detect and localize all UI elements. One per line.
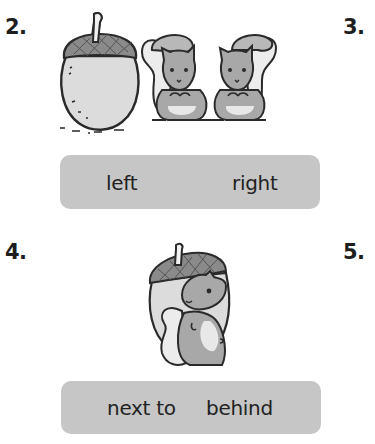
choice-box-exercise-2: left right (60, 155, 320, 209)
acorn-illustration (58, 12, 143, 134)
exercise-number-3: 3. (343, 17, 365, 38)
exercise-number-2: 2. (5, 17, 27, 38)
choice-left[interactable]: left (106, 171, 137, 195)
squirrel-illustration-2 (204, 30, 279, 122)
choice-next-to[interactable]: next to (107, 396, 176, 420)
choice-right[interactable]: right (232, 171, 278, 195)
exercise-number-4: 4. (5, 242, 27, 263)
choice-behind[interactable]: behind (206, 396, 273, 420)
choice-box-exercise-4: next to behind (61, 381, 321, 434)
squirrel-illustration-1 (140, 30, 210, 122)
exercise-number-5: 5. (343, 242, 365, 263)
acorn-squirrel-illustration (146, 243, 232, 371)
